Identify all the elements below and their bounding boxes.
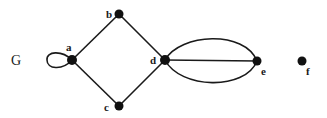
node-label-a: a bbox=[66, 41, 72, 53]
edge-a-b bbox=[72, 14, 119, 60]
node-label-d: d bbox=[150, 54, 156, 66]
node-label-c: c bbox=[104, 101, 109, 113]
node-a bbox=[67, 55, 77, 65]
graph-diagram: G a b c d e f bbox=[0, 0, 327, 118]
edge-d-e-upper-arc bbox=[165, 39, 257, 61]
edge-a-c bbox=[72, 60, 119, 106]
edge-d-e-lower-arc bbox=[165, 60, 257, 83]
graph-name-label: G bbox=[11, 53, 21, 68]
node-d bbox=[160, 55, 170, 65]
node-c bbox=[115, 102, 124, 111]
edge-c-d bbox=[119, 60, 165, 106]
edge-d-e-straight bbox=[165, 60, 257, 61]
node-b bbox=[115, 10, 124, 19]
node-label-f: f bbox=[306, 65, 310, 77]
node-label-e: e bbox=[261, 65, 266, 77]
edge-b-d bbox=[119, 14, 165, 60]
node-label-b: b bbox=[106, 8, 112, 20]
